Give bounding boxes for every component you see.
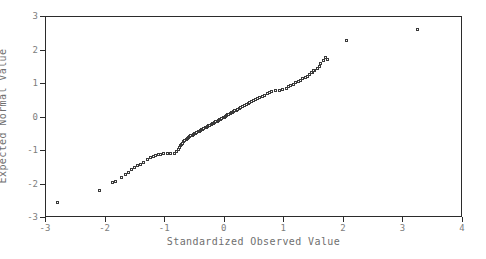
x-axis-label: Standardized Observed Value (45, 236, 462, 247)
x-tick-mark (283, 217, 284, 222)
scatter-point (114, 180, 117, 183)
scatter-point (322, 59, 325, 62)
scatter-point (98, 189, 101, 192)
scatter-point (136, 164, 139, 167)
scatter-point (274, 89, 277, 92)
y-tick-label: -3 (27, 212, 38, 222)
scatter-point (162, 152, 165, 155)
scatter-point (345, 39, 348, 42)
y-axis-label: Expected Normal Value (0, 49, 8, 184)
scatter-point (416, 28, 419, 31)
x-tick-label: 2 (340, 223, 345, 233)
x-tick-mark (224, 217, 225, 222)
qq-plot-figure: -3-2-10123 -3-2-101234 Standardized Obse… (0, 0, 486, 259)
x-tick-label: 1 (281, 223, 286, 233)
x-tick-mark (462, 217, 463, 222)
scatter-point (124, 173, 127, 176)
x-tick-label: -1 (159, 223, 170, 233)
y-tick-label: 1 (33, 78, 38, 88)
y-tick-label: 3 (33, 11, 38, 21)
scatter-point (120, 176, 123, 179)
x-tick-label: -2 (99, 223, 110, 233)
scatter-point (270, 90, 273, 93)
scatter-point (278, 89, 281, 92)
y-tick-label: -1 (27, 145, 38, 155)
x-tick-label: -3 (40, 223, 51, 233)
scatter-point (111, 181, 114, 184)
scatter-point (56, 201, 59, 204)
scatter-point (319, 62, 322, 65)
scatter-plot-area (46, 17, 461, 216)
y-tick-label: -2 (27, 179, 38, 189)
x-tick-mark (164, 217, 165, 222)
y-tick-label: 0 (33, 112, 38, 122)
plot-frame (45, 16, 462, 217)
scatter-point (281, 88, 284, 91)
scatter-point (326, 58, 329, 61)
x-tick-mark (343, 217, 344, 222)
scatter-point (166, 152, 169, 155)
x-tick-mark (105, 217, 106, 222)
y-tick-label: 2 (33, 45, 38, 55)
scatter-point (127, 171, 130, 174)
x-tick-mark (45, 217, 46, 222)
scatter-point (310, 71, 313, 74)
scatter-point (169, 152, 172, 155)
x-tick-label: 3 (400, 223, 405, 233)
scatter-point (130, 168, 133, 171)
scatter-point (318, 65, 321, 68)
x-tick-label: 4 (459, 223, 464, 233)
scatter-point (142, 161, 145, 164)
x-tick-label: 0 (221, 223, 226, 233)
x-tick-mark (402, 217, 403, 222)
